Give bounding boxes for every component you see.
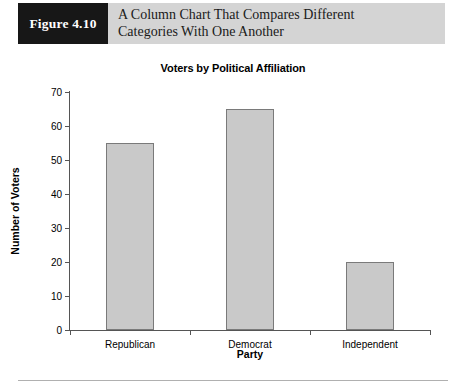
y-axis-tick	[65, 160, 70, 161]
y-axis-tick-label: 60	[51, 121, 62, 132]
y-axis-tick-label: 50	[51, 155, 62, 166]
bar-republican	[106, 143, 154, 330]
y-axis-tick	[65, 92, 70, 93]
figure-caption-line-1: A Column Chart That Compares Different	[118, 6, 439, 23]
y-axis-title: Number of Voters	[8, 92, 22, 330]
y-axis-tick-label: 20	[51, 257, 62, 268]
bar-democrat	[226, 109, 274, 330]
figure-number-badge: Figure 4.10	[18, 3, 108, 44]
y-axis-tick-label: 0	[56, 325, 62, 336]
y-axis-tick-label: 70	[51, 87, 62, 98]
bar-chart: Voters by Political Affiliation Number o…	[0, 52, 466, 362]
y-axis-tick	[65, 228, 70, 229]
y-axis-tick-label: 40	[51, 189, 62, 200]
figure-caption-line-2: Categories With One Another	[118, 23, 439, 40]
x-axis-tick	[430, 330, 431, 335]
x-axis-line	[69, 330, 431, 331]
y-axis-tick-label: 30	[51, 223, 62, 234]
y-axis-title-text: Number of Voters	[9, 167, 21, 254]
plot-area: 010203040506070 RepublicanDemocratIndepe…	[70, 92, 430, 330]
bar-independent	[346, 262, 394, 330]
figure-header: Figure 4.10 A Column Chart That Compares…	[18, 3, 445, 44]
x-axis-title: Party	[70, 348, 430, 360]
bottom-divider	[18, 380, 448, 381]
y-axis-tick	[65, 126, 70, 127]
y-axis-tick	[65, 262, 70, 263]
y-axis-tick	[65, 194, 70, 195]
figure-caption: A Column Chart That Compares Different C…	[108, 3, 445, 44]
y-axis-tick	[65, 296, 70, 297]
x-axis-tick	[190, 330, 191, 335]
x-axis-tick	[310, 330, 311, 335]
x-axis-tick	[70, 330, 71, 335]
chart-title: Voters by Political Affiliation	[0, 62, 466, 74]
y-axis-tick-label: 10	[51, 291, 62, 302]
